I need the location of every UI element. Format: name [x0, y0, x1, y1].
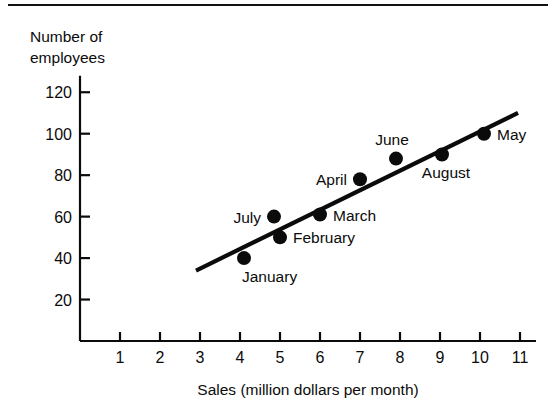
x-tick-label: 1	[116, 349, 125, 366]
data-point-label-april: April	[316, 171, 347, 188]
data-point-marker	[353, 172, 367, 186]
data-point-marker	[273, 230, 287, 244]
data-point-label-may: May	[497, 126, 527, 143]
x-tick-label: 3	[196, 349, 205, 366]
data-point-marker	[435, 147, 449, 161]
data-point-marker	[389, 152, 403, 166]
y-tick-label: 80	[54, 167, 72, 184]
data-point-marker	[313, 208, 327, 222]
x-tick-label: 9	[436, 349, 445, 366]
x-tick-label: 7	[356, 349, 365, 366]
data-point-label-july: July	[233, 209, 261, 226]
data-point-marker	[477, 127, 491, 141]
x-tick-label: 10	[471, 349, 489, 366]
data-point-label-march: March	[333, 207, 376, 224]
y-tick-label: 120	[45, 84, 72, 101]
trend-line	[196, 113, 518, 271]
x-tick-label: 6	[316, 349, 325, 366]
axes-group	[80, 76, 536, 341]
data-point-label-february: February	[293, 229, 355, 246]
data-point-label-august: August	[422, 164, 471, 181]
x-tick-label: 4	[236, 349, 245, 366]
x-tick-label: 11	[512, 349, 529, 366]
data-point-label-january: January	[242, 268, 297, 285]
y-axis-title-line: Number of	[30, 28, 103, 45]
x-axis-title: Sales (million dollars per month)	[197, 381, 418, 398]
y-tick-label: 20	[54, 292, 72, 309]
chart-figure: 204060801001201234567891011 JanuaryFebru…	[0, 0, 556, 411]
scatter-plot: 204060801001201234567891011 JanuaryFebru…	[0, 0, 556, 411]
x-tick-label: 5	[276, 349, 285, 366]
trend-line-segment	[196, 113, 518, 271]
data-point-marker	[267, 210, 281, 224]
x-tick-label: 8	[396, 349, 405, 366]
y-tick-label: 100	[45, 126, 72, 143]
tick-marks-group	[80, 92, 520, 341]
y-axis-title-line: employees	[30, 49, 105, 66]
data-point-labels-group: JanuaryFebruaryMarchAprilMayJuneJulyAugu…	[233, 126, 526, 285]
data-points-group	[237, 127, 491, 265]
x-tick-label: 2	[156, 349, 165, 366]
data-point-marker	[237, 251, 251, 265]
y-tick-label: 60	[54, 209, 72, 226]
data-point-label-june: June	[375, 131, 409, 148]
y-tick-label: 40	[54, 250, 72, 267]
